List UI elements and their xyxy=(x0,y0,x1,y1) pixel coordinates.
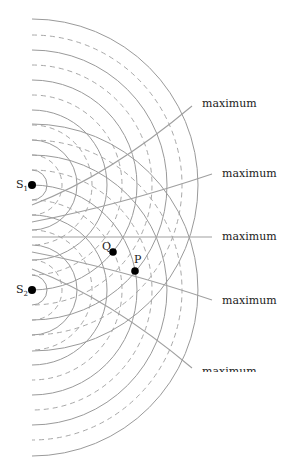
point-q-label: Q xyxy=(102,241,111,252)
maximum-label-central: maximum xyxy=(222,231,277,242)
interference-diagram: S1 S2 Q P maximum maximum maximum maximu… xyxy=(0,0,281,476)
maximum-label-1: maximum xyxy=(202,98,257,109)
maximum-line-1 xyxy=(32,106,192,205)
source-s2-label: S2 xyxy=(16,284,28,298)
maximum-label-4: maximum xyxy=(222,295,277,306)
source-s1-dot xyxy=(28,181,36,189)
crest-wavefront xyxy=(32,19,198,351)
crest-wavefront xyxy=(32,124,198,456)
point-p-label: P xyxy=(134,254,141,265)
crest-wavefront xyxy=(32,155,167,425)
maximum-label-2: maximum xyxy=(222,168,277,179)
maximum-lines xyxy=(32,106,212,368)
source-s1-label: S1 xyxy=(16,179,28,193)
source-s2-dot xyxy=(28,286,36,294)
point-p-dot xyxy=(131,267,139,275)
